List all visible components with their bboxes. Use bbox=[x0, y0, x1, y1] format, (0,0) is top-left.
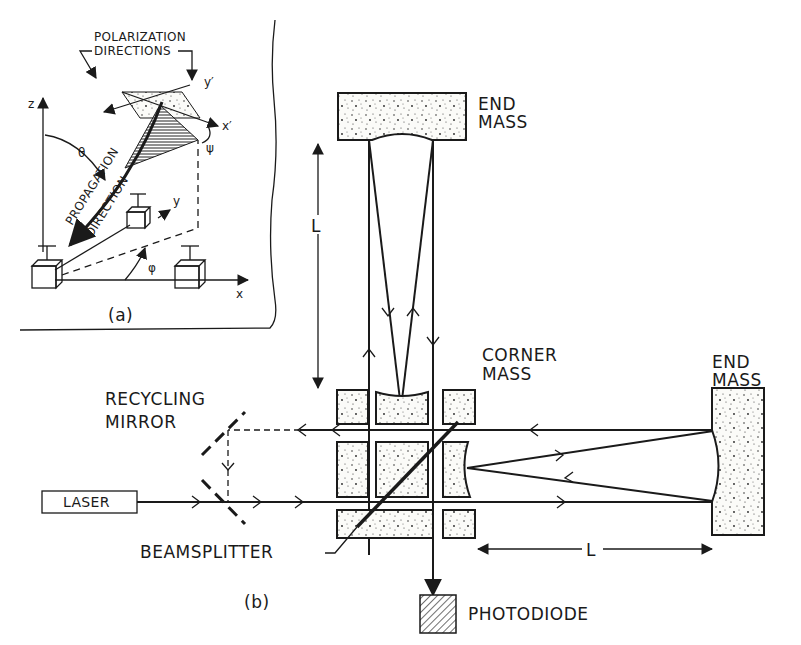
polarization-pointer-right bbox=[178, 51, 192, 80]
beam-fold-h-top bbox=[467, 430, 720, 468]
phi-arc bbox=[125, 248, 145, 280]
interferometer-diagram: z x y φ bbox=[0, 0, 801, 645]
beamsplitter-block bbox=[376, 442, 428, 497]
corner-block-tl bbox=[337, 390, 368, 424]
y-axis-label: y bbox=[173, 194, 180, 208]
polarization-label-1: POLARIZATION bbox=[94, 30, 186, 44]
panel-b: END MASS L bbox=[42, 93, 764, 633]
test-mass-x bbox=[175, 246, 205, 288]
corner-block-ml bbox=[337, 442, 368, 497]
panel-a: z x y φ bbox=[20, 20, 276, 330]
polarization-label-2: DIRECTIONS bbox=[94, 44, 171, 58]
photodiode-label: PHOTODIODE bbox=[468, 604, 589, 624]
z-axis-label: z bbox=[28, 97, 34, 111]
beam-fold-right bbox=[402, 140, 433, 400]
end-mass-top-label-2: MASS bbox=[478, 112, 528, 132]
y-axis-arrow bbox=[158, 210, 170, 218]
beamsplitter-label: BEAMSPLITTER bbox=[140, 542, 273, 562]
recycling-mirror-label-1: RECYCLING bbox=[105, 389, 205, 409]
arm-length-horizontal-label: L bbox=[586, 540, 596, 560]
corner-block-br bbox=[443, 510, 475, 538]
test-mass-origin bbox=[32, 246, 62, 288]
beam-fold-left bbox=[369, 140, 400, 400]
theta-label: θ bbox=[78, 146, 85, 160]
projection-line bbox=[62, 228, 198, 275]
corner-mass-label-1: CORNER bbox=[482, 345, 557, 365]
laser-label: LASER bbox=[63, 494, 110, 510]
test-mass-y bbox=[127, 194, 150, 228]
panel-a-caption: (a) bbox=[108, 305, 133, 325]
psi-label: ψ bbox=[206, 141, 214, 155]
end-mass-top bbox=[338, 93, 466, 140]
panel-a-border bbox=[20, 20, 276, 330]
recycling-mirror-upper bbox=[202, 412, 245, 455]
end-mass-right-label-2: MASS bbox=[712, 370, 762, 390]
recycling-mirror-label-2: MIRROR bbox=[105, 412, 177, 432]
yp-label: y′ bbox=[204, 75, 214, 89]
xp-label: x′ bbox=[222, 119, 232, 133]
end-mass-right bbox=[712, 388, 764, 535]
corner-block-tr bbox=[443, 390, 475, 424]
x-axis-label: x bbox=[236, 287, 243, 301]
photodiode bbox=[420, 595, 456, 633]
corner-mass-label-2: MASS bbox=[482, 364, 532, 384]
panel-b-caption: (b) bbox=[244, 592, 270, 612]
beam-fold-h-bottom bbox=[467, 468, 720, 502]
end-mass-top-label-1: END bbox=[478, 94, 516, 114]
arm-length-vertical-label: L bbox=[311, 216, 321, 236]
end-mass-right-label-1: END bbox=[712, 352, 750, 372]
corner-mirror-right bbox=[443, 442, 470, 497]
corner-mirror-top bbox=[376, 392, 428, 424]
propagation-arrow bbox=[70, 102, 162, 245]
phi-label: φ bbox=[148, 261, 156, 275]
